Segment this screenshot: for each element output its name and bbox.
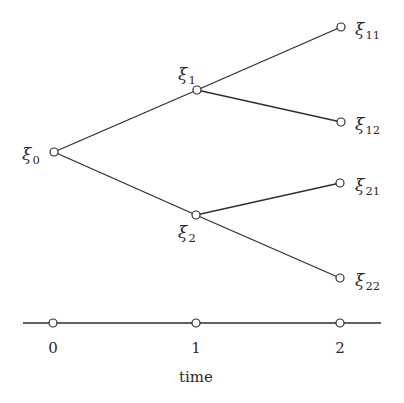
scenario-tree-diagram: ξ0ξ1ξ2ξ11ξ12ξ21ξ22 012time [0,0,404,403]
edge-xi1-xi12 [197,90,341,122]
time-tick-1 [192,319,200,327]
node-label-xi22: ξ22 [355,270,380,293]
time-axis: 012time [23,319,381,386]
time-tick-2 [336,319,344,327]
node-xi2 [192,211,200,219]
edge-xi0-xi1 [54,90,197,152]
node-label-xi21: ξ21 [355,175,380,198]
time-tick-label: 1 [191,339,201,357]
node-subscript: 22 [365,279,380,293]
node-subscript: 1 [188,73,195,87]
node-label-xi11: ξ11 [355,19,380,42]
node-subscript: 21 [365,184,380,198]
node-symbol: ξ [22,144,33,164]
node-xi11 [337,23,345,31]
node-symbol: ξ [355,270,366,290]
node-label-xi2: ξ2 [178,222,196,245]
node-xi0 [50,148,58,156]
node-subscript: 0 [32,153,39,167]
node-subscript: 12 [365,123,380,137]
node-label-xi12: ξ12 [355,114,380,137]
node-subscript: 11 [365,28,380,42]
node-labels: ξ0ξ1ξ2ξ11ξ12ξ21ξ22 [22,19,380,293]
node-xi1 [193,86,201,94]
node-label-xi1: ξ1 [178,64,196,87]
node-xi22 [336,274,344,282]
tree-nodes [50,23,345,282]
edge-xi2-xi21 [196,183,340,215]
node-subscript: 2 [188,231,195,245]
diagram-svg: ξ0ξ1ξ2ξ11ξ12ξ21ξ22 012time [0,0,404,403]
node-symbol: ξ [355,19,366,39]
node-symbol: ξ [355,175,366,195]
edge-xi2-xi22 [196,215,340,278]
node-symbol: ξ [355,114,366,134]
time-tick-label: 0 [48,339,58,357]
tree-edges [54,27,341,278]
edge-xi0-xi2 [54,152,196,215]
node-symbol: ξ [178,222,189,242]
node-symbol: ξ [178,64,189,84]
node-xi21 [336,179,344,187]
node-xi12 [337,118,345,126]
edge-xi1-xi11 [197,27,341,90]
node-label-xi0: ξ0 [22,144,40,167]
time-tick-0 [49,319,57,327]
time-tick-label: 2 [335,339,345,357]
time-axis-title: time [179,368,213,386]
